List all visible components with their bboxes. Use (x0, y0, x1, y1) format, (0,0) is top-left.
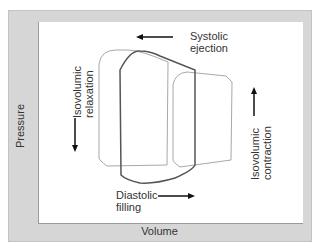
diastolic-arrow-head (188, 193, 195, 199)
relaxation-arrow-head (72, 145, 78, 152)
diastolic-line1: Diastolic (116, 189, 158, 201)
relaxation-line2: relaxation (83, 66, 95, 118)
systolic-line1: Systolic (190, 30, 228, 42)
systolic-arrow-head (136, 34, 143, 40)
right-loop (173, 72, 232, 167)
isovolumic-contraction-label: Isovolumic contraction (249, 126, 273, 180)
diastolic-filling-label: Diastolic filling (116, 189, 158, 213)
contraction-arrow-head (251, 87, 257, 94)
systolic-ejection-label: Systolic ejection (190, 30, 228, 54)
x-axis-label: Volume (0, 225, 319, 237)
relaxation-line1: Isovolumic (71, 66, 83, 118)
pv-loops (0, 0, 319, 249)
contraction-line2: contraction (261, 126, 273, 180)
systolic-line2: ejection (190, 42, 228, 54)
diastolic-line2: filling (116, 201, 158, 213)
y-axis-label: Pressure (14, 96, 26, 156)
center-loop (120, 51, 195, 183)
left-loop (99, 50, 168, 166)
contraction-line1: Isovolumic (249, 126, 261, 180)
isovolumic-relaxation-label: Isovolumic relaxation (71, 66, 95, 118)
